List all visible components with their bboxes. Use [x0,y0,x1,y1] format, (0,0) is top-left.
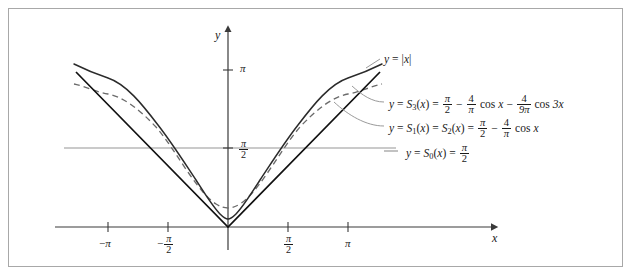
x-tick-label--pi: −π [99,238,111,249]
abs-eq: = [392,53,399,65]
abs-y: y [384,53,389,65]
s1-eq3: = [467,122,474,134]
y-tick-label-pi-half: π2 [238,139,249,161]
annotation-s3: y=S3(x)=π2−4πcosx−49πcos3x [389,94,564,117]
s3-t2-num: 4 [467,94,476,105]
s3-paren-close: ) [425,98,429,110]
s3-t2-den: π [467,104,476,116]
fourier-series-figure: y x −π −π2 π2 π π π2 y=|x| y=S3(x)=π2−4π… [0,0,633,277]
y-tick-pi-half-num: π [239,139,248,149]
annotation-s1-s2: y=S1(x)=S2(x)=π2−4πcosx [389,118,539,141]
s0-t1-den: 2 [460,153,469,165]
abs-bar-close: | [409,53,411,65]
x-tick-label-pi-half: π2 [283,234,294,256]
s3-eq2: = [432,98,439,110]
s1-t2-fn: cos [515,122,530,134]
s3-t3-den: 9π [517,104,532,116]
s1-t1-den: 2 [478,128,487,140]
x-tick--pi-half-num: π [164,234,173,244]
y-axis-label: y [215,29,220,41]
x-tick-pi-half-num: π [284,234,293,244]
x-tick--pi-half-den: 2 [164,244,173,255]
s1-t2-num: 4 [502,118,511,129]
s1-t2-arg: x [533,122,538,134]
s3-t3-fn: cos [534,98,549,110]
s1-paren-close: ) [425,122,429,134]
s3-t1-num: π [443,94,452,105]
s0-t1-num: π [460,143,469,154]
s3-eq1: = [397,98,404,110]
annotation-abs-x: y=|x| [384,54,411,66]
x-tick--pi-half-sign: − [157,237,163,249]
s0-eq2: = [449,147,456,159]
s0-eq1: = [414,147,421,159]
x-axis-label: x [492,232,497,244]
y-tick-label-pi: π [240,63,246,74]
s0-paren-close: ) [442,147,446,159]
y-tick-pi-symbol: π [240,62,246,74]
leader-s1s2 [334,102,384,126]
s0-y: y [406,147,411,159]
s3-op1: − [456,98,463,110]
x-tick-pi-symbol: π [345,237,351,249]
s1-eq1: = [397,122,404,134]
s3-y: y [389,98,394,110]
s3-t3-num: 4 [517,94,532,105]
s1-t2-den: π [502,128,511,140]
s3-t3-arg: 3x [553,98,564,110]
s1-eq2: = [432,122,439,134]
x-tick-label-pi: π [345,238,351,249]
y-tick-pi-half-den: 2 [239,149,248,160]
x-tick-pi-half-den: 2 [284,244,293,255]
s3-op2: − [506,98,513,110]
s3-t1-den: 2 [443,104,452,116]
x-tick--pi-symbol: π [105,237,111,249]
annotation-s0: y=S0(x)=π2 [406,143,470,166]
x-tick-label--pi-half: −π2 [157,234,174,256]
s1-y: y [389,122,394,134]
s3-t2-arg: x [498,98,503,110]
s1-t1-num: π [478,118,487,129]
s2-paren-close: ) [461,122,465,134]
s1-op1: − [491,122,498,134]
leader-s3 [352,86,384,102]
s3-t2-fn: cos [480,98,495,110]
